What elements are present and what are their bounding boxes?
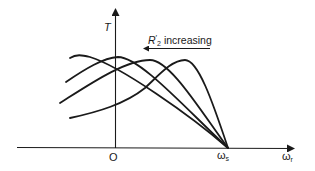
r2-symbol: R (148, 34, 156, 46)
curve-1 (70, 55, 228, 148)
curve-2 (66, 57, 228, 148)
x-axis-label: ωr (282, 151, 293, 163)
sync-speed-label: ωs (217, 150, 229, 162)
r2-increasing-label: R′2 increasing (148, 34, 212, 47)
sync-speed-symbol: ω (217, 149, 226, 161)
origin-label: O (109, 152, 118, 163)
x-axis (17, 148, 294, 149)
torque-speed-diagram (0, 0, 315, 171)
y-axis-label: T (104, 22, 111, 33)
sync-speed-subscript: s (226, 155, 230, 162)
increasing-text: increasing (161, 34, 212, 46)
rotor-speed-subscript: r (291, 156, 293, 163)
curve-3 (60, 60, 228, 148)
rotor-speed-symbol: ω (282, 150, 291, 162)
